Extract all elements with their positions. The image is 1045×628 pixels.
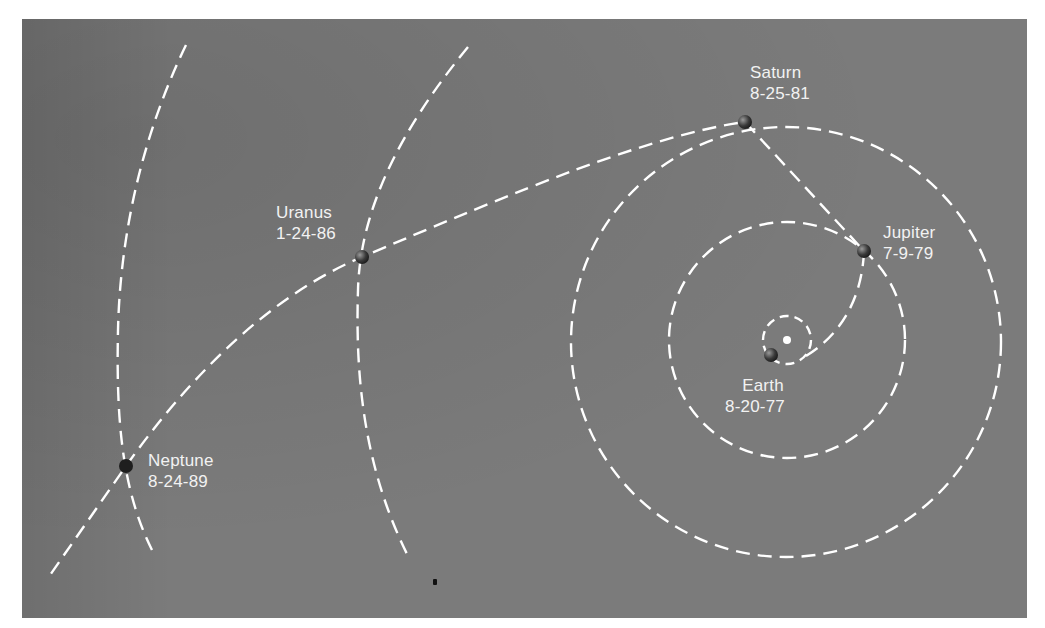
jupiter-name: Jupiter (883, 222, 935, 243)
earth-date: 8-20-77 (725, 396, 785, 417)
uranus-label: Uranus 1-24-86 (276, 202, 336, 244)
jupiter-date: 7-9-79 (883, 243, 935, 264)
saturn-planet-icon (738, 115, 752, 129)
earth-label: Earth 8-20-77 (725, 375, 785, 417)
neptune-date: 8-24-89 (148, 471, 214, 492)
neptune-name: Neptune (148, 450, 214, 471)
saturn-label: Saturn 8-25-81 (750, 62, 810, 104)
print-speck (433, 579, 437, 585)
earth-planet-icon (764, 348, 778, 362)
jupiter-planet-icon (857, 244, 871, 258)
saturn-name: Saturn (750, 62, 810, 83)
neptune-label: Neptune 8-24-89 (148, 450, 214, 492)
uranus-date: 1-24-86 (276, 223, 336, 244)
uranus-planet-icon (355, 250, 369, 264)
uranus-orbit (358, 47, 468, 556)
uranus-name: Uranus (276, 202, 336, 223)
voyager-trajectory (48, 122, 864, 578)
jupiter-label: Jupiter 7-9-79 (883, 222, 935, 264)
trajectory-diagram (0, 0, 1045, 628)
neptune-planet-icon (119, 459, 133, 473)
earth-name: Earth (725, 375, 785, 396)
saturn-date: 8-25-81 (750, 83, 810, 104)
sun-icon (783, 336, 791, 344)
